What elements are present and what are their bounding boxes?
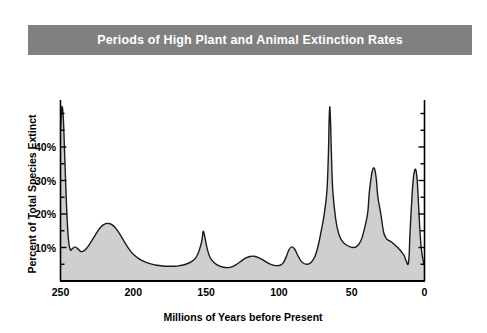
x-tick-label-0: 0 bbox=[422, 286, 428, 298]
y-tick-label-20pct: 20% bbox=[22, 208, 56, 220]
extinction-curve-svg bbox=[0, 0, 487, 333]
y-tick-label-40pct: 40% bbox=[22, 141, 56, 153]
x-axis-title: Millions of Years before Present bbox=[60, 311, 426, 323]
x-tick-label-50: 50 bbox=[346, 286, 358, 298]
x-tick-label-250: 250 bbox=[52, 286, 70, 298]
extinction-area-fill bbox=[61, 107, 425, 281]
x-tick-label-200: 200 bbox=[125, 286, 143, 298]
x-tick-label-100: 100 bbox=[270, 286, 288, 298]
y-tick-label-10pct: 10% bbox=[22, 242, 56, 254]
y-axis-title: Percent of Total Species Extinct bbox=[26, 74, 38, 314]
y-tick-label-30pct: 30% bbox=[22, 175, 56, 187]
x-tick-label-150: 150 bbox=[197, 286, 215, 298]
extinction-rates-figure: Periods of High Plant and Animal Extinct… bbox=[0, 0, 487, 333]
area-series-group bbox=[61, 107, 425, 281]
chart-plot-area: Percent of Total Species Extinct Million… bbox=[0, 0, 487, 333]
